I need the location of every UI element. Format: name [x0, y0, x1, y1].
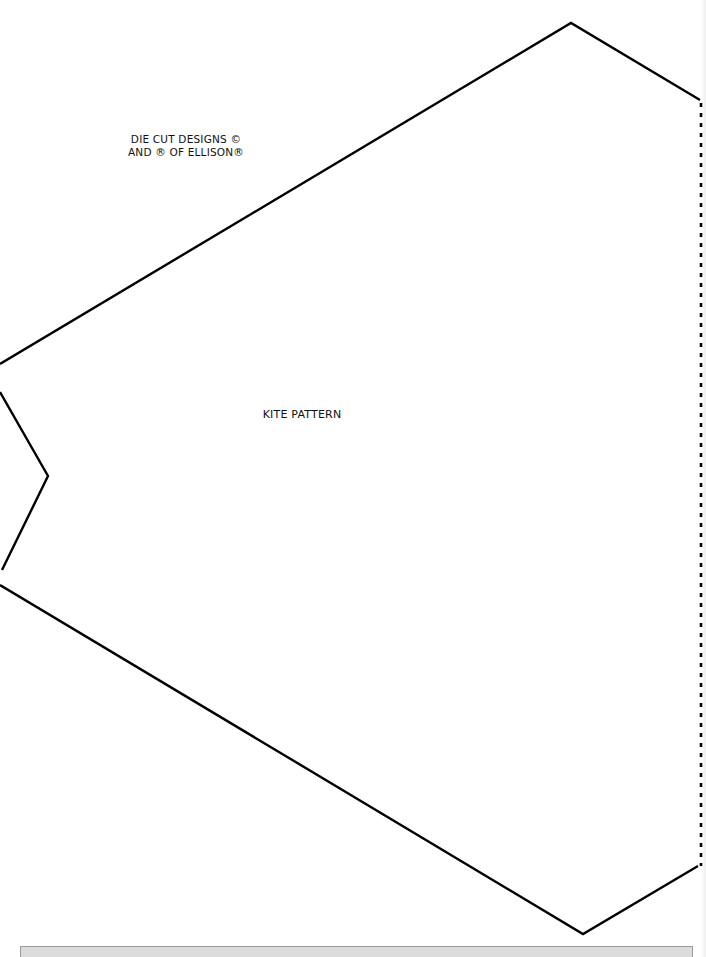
copyright-notice: DIE CUT DESIGNS © AND ® OF ELLISON® [118, 133, 254, 159]
kite-lower-edge [0, 585, 698, 934]
pattern-page: DIE CUT DESIGNS © AND ® OF ELLISON® KITE… [0, 0, 706, 957]
kite-tail-notch [0, 392, 48, 570]
footer-bar [20, 946, 693, 957]
kite-upper-edge [0, 23, 700, 364]
copyright-line-2: AND ® OF ELLISON® [118, 146, 254, 159]
copyright-line-1: DIE CUT DESIGNS © [118, 133, 254, 146]
kite-outline [0, 0, 706, 957]
pattern-title: KITE PATTERN [249, 408, 355, 421]
